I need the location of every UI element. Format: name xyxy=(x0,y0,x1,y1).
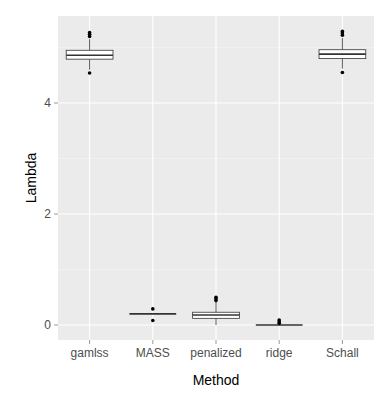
y-axis-title: Lambda xyxy=(23,152,39,203)
outlier-point xyxy=(214,295,218,299)
outlier-point xyxy=(277,318,281,322)
x-tick-label: ridge xyxy=(266,346,293,360)
x-tick-label: penalized xyxy=(190,346,241,360)
x-axis-title: Method xyxy=(193,372,240,388)
y-tick-label: 4 xyxy=(44,96,51,110)
y-tick-label: 2 xyxy=(44,207,51,221)
x-tick-label: Schall xyxy=(326,346,359,360)
outlier-point xyxy=(88,71,92,75)
y-tick-label: 0 xyxy=(44,318,51,332)
box-plot-chart: 024 gamlssMASSpenalizedridgeSchall Metho… xyxy=(0,0,392,402)
y-axis: 024 xyxy=(44,96,58,332)
x-tick-label: gamlss xyxy=(71,346,109,360)
x-tick-label: MASS xyxy=(136,346,170,360)
outlier-point xyxy=(341,71,345,75)
outlier-point xyxy=(341,30,345,34)
outlier-point xyxy=(151,307,155,311)
outlier-point xyxy=(151,319,155,323)
x-axis: gamlssMASSpenalizedridgeSchall xyxy=(71,340,359,360)
outlier-point xyxy=(88,31,92,35)
